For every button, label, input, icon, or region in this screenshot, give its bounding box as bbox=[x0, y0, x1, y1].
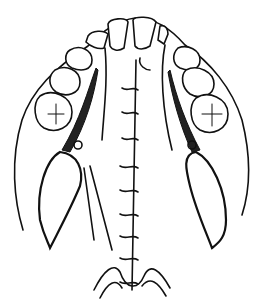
left-flap bbox=[39, 152, 81, 248]
palate-midline-tissue bbox=[102, 45, 172, 150]
palate-drawing bbox=[0, 0, 262, 304]
right-flap bbox=[186, 152, 226, 248]
suture-midline bbox=[132, 60, 136, 290]
incisors bbox=[86, 17, 168, 50]
palate-illustration bbox=[0, 0, 262, 304]
left-foramen bbox=[74, 141, 82, 149]
instrument bbox=[84, 166, 112, 250]
